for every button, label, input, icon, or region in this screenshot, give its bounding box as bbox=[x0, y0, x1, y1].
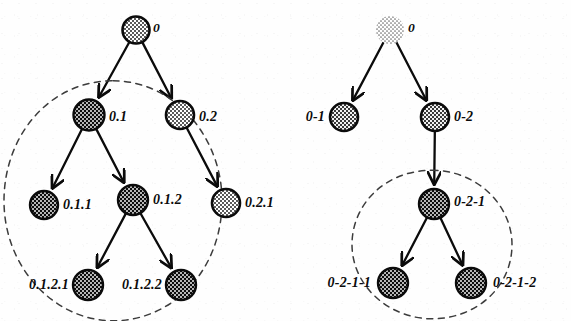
tree-edge bbox=[140, 212, 172, 268]
tree-edge bbox=[396, 42, 427, 101]
node-disc bbox=[212, 189, 240, 217]
tree-edge bbox=[99, 41, 130, 98]
node-label: 0-2-1 bbox=[454, 195, 485, 209]
tree-node bbox=[456, 268, 486, 298]
node-label: 0-2-1-1 bbox=[0, 276, 371, 290]
tree-node bbox=[330, 103, 358, 131]
tree-figure bbox=[0, 0, 571, 321]
node-disc bbox=[376, 16, 404, 44]
node-label: 0.1.2 bbox=[153, 193, 182, 207]
node-label: 0.2.1 bbox=[245, 196, 274, 210]
node-disc bbox=[456, 268, 486, 298]
node-label: 0-2-1-2 bbox=[493, 276, 536, 290]
node-disc bbox=[421, 103, 449, 131]
node-label: 0 bbox=[408, 21, 415, 35]
tree-node bbox=[212, 189, 240, 217]
tree-edge bbox=[434, 130, 435, 185]
tree-edge bbox=[353, 41, 384, 100]
tree-node bbox=[419, 189, 449, 219]
node-label: 0-1 bbox=[0, 110, 325, 124]
tree-edge bbox=[440, 217, 463, 266]
node-disc bbox=[123, 17, 150, 44]
tree-node bbox=[378, 268, 408, 298]
tree-node bbox=[421, 103, 449, 131]
node-label: 0 bbox=[153, 21, 160, 35]
tree-node bbox=[123, 17, 150, 44]
nodes-layer bbox=[30, 16, 486, 300]
tree-edge bbox=[402, 216, 428, 265]
node-disc bbox=[378, 268, 408, 298]
edges-layer bbox=[52, 41, 462, 268]
tree-edge bbox=[97, 212, 126, 267]
tree-edge bbox=[186, 127, 217, 187]
node-label: 0-2 bbox=[454, 110, 473, 124]
node-disc bbox=[419, 189, 449, 219]
node-disc bbox=[118, 185, 148, 215]
tree-edge bbox=[142, 41, 172, 98]
tree-node bbox=[118, 185, 148, 215]
tree-node bbox=[376, 16, 404, 44]
tree-edge bbox=[96, 128, 124, 183]
node-label: 0.1.1 bbox=[63, 198, 92, 212]
tree-edge bbox=[52, 128, 82, 188]
node-disc bbox=[330, 103, 358, 131]
tree-node bbox=[30, 191, 58, 219]
node-disc bbox=[30, 191, 58, 219]
